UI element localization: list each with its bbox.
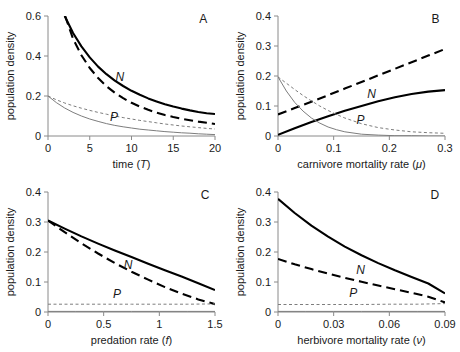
curve-label-p: P: [349, 286, 357, 300]
panel-letter: D: [430, 188, 439, 202]
ytick-label: 0: [35, 130, 41, 142]
ytick-label: 0.1: [256, 276, 271, 288]
xtick-label: 0.06: [379, 318, 400, 330]
curve-label-n: N: [124, 258, 133, 272]
curve-n-thick-solid: [48, 221, 215, 291]
ytick-label: 0.1: [26, 276, 41, 288]
xtick-label: 0: [275, 142, 281, 154]
xaxis-title: carnivore mortality rate (μ): [297, 158, 425, 170]
chart-panel-c: 00.10.20.30.400.511.5predation rate (f)p…: [0, 176, 230, 352]
xtick-label: 1: [156, 318, 162, 330]
curve-label-p: P: [110, 110, 118, 124]
ytick-label: 0.4: [256, 10, 271, 22]
ytick-label: 0.6: [26, 10, 41, 22]
xtick-label: 20: [209, 142, 221, 154]
curve-label-p: P: [113, 287, 121, 301]
chart-panel-d: 00.10.20.30.400.030.060.09herbivore mort…: [230, 176, 460, 352]
xaxis-title: herbivore mortality rate (ν): [297, 334, 425, 346]
axes-c: [48, 192, 215, 312]
curve-n-thick-solid: [278, 199, 445, 294]
chart-panel-b: 00.10.20.30.400.10.20.3carnivore mortali…: [230, 0, 460, 176]
xtick-label: 0.09: [434, 318, 455, 330]
ytick-label: 0.4: [256, 186, 271, 198]
yaxis-title: population density: [4, 31, 16, 120]
ytick-label: 0.3: [256, 216, 271, 228]
xtick-label: 0.3: [437, 142, 452, 154]
ytick-label: 0.3: [26, 216, 41, 228]
figure-population-density: 00.20.40.605101520time (T)population den…: [0, 0, 460, 352]
panel-letter: A: [199, 12, 207, 26]
ytick-label: 0.4: [26, 186, 41, 198]
ytick-label: 0.2: [256, 246, 271, 258]
xtick-label: 1.5: [207, 318, 222, 330]
ytick-label: 0: [35, 306, 41, 318]
xtick-label: 15: [167, 142, 179, 154]
xtick-label: 0.5: [96, 318, 111, 330]
ytick-label: 0.2: [256, 70, 271, 82]
xtick-label: 0.03: [323, 318, 344, 330]
curve-n-thick-dashed: [278, 49, 445, 114]
ytick-label: 0: [265, 130, 271, 142]
curve-label-n: N: [115, 70, 124, 84]
xtick-label: 0: [45, 318, 51, 330]
xtick-label: 0: [275, 318, 281, 330]
xaxis-title: time (T): [113, 158, 151, 170]
ytick-label: 0.2: [26, 90, 41, 102]
curve-n-thick-dashed: [65, 16, 215, 124]
curve-label-n: N: [367, 87, 376, 101]
curve-label-n: N: [356, 263, 365, 277]
xtick-label: 0.2: [382, 142, 397, 154]
chart-panel-a: 00.20.40.605101520time (T)population den…: [0, 0, 230, 176]
ytick-label: 0.4: [26, 50, 41, 62]
curve-n-thick-solid: [65, 16, 215, 114]
yaxis-title: population density: [4, 207, 16, 296]
xtick-label: 0.1: [326, 142, 341, 154]
yaxis-title: population density: [234, 207, 246, 296]
xtick-label: 10: [125, 142, 137, 154]
curve-label-p: P: [356, 113, 364, 127]
yaxis-title: population density: [234, 31, 246, 120]
xtick-label: 5: [87, 142, 93, 154]
ytick-label: 0.3: [256, 40, 271, 52]
ytick-label: 0.2: [26, 246, 41, 258]
panel-letter: C: [201, 188, 210, 202]
curve-p-thin-dashed: [278, 304, 445, 305]
ytick-label: 0.1: [256, 100, 271, 112]
xaxis-title: predation rate (f): [91, 334, 172, 346]
ytick-label: 0: [265, 306, 271, 318]
xtick-label: 0: [45, 142, 51, 154]
panel-letter: B: [432, 12, 440, 26]
